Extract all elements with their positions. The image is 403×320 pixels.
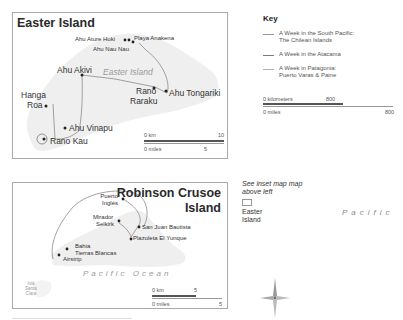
place-label: BahiaTierras Blancas — [75, 243, 116, 257]
ocean-label: Pacific — [342, 208, 394, 217]
route-line-icon — [263, 69, 274, 70]
scale-bar: 0 kilometers 800 0 miles 800 — [263, 96, 401, 118]
key-item: A Week in the South Pacific:The Chilean … — [263, 30, 401, 44]
island-label: Easter Island — [103, 68, 153, 77]
key-item: A Week in Patagonia:Puerto Varas & Paine — [263, 65, 401, 79]
place-label: Raraku — [130, 97, 157, 106]
map-title: Easter Island — [17, 16, 95, 30]
place-label: Plazoleta El Yunque — [133, 235, 187, 242]
map-title: Robinson Crusoe Island — [117, 186, 221, 216]
place-label: MiradorSelkirk — [93, 214, 114, 228]
route-line-icon — [263, 55, 274, 56]
divider — [12, 318, 132, 319]
place-label: Ahu Ature Huki — [75, 36, 115, 43]
place-label: San Juan Bautista — [142, 224, 191, 231]
inset-note: See inset map map above left Easter Isla… — [242, 180, 302, 224]
place-label: Ahu Akivi — [57, 66, 92, 75]
robinson-crusoe-map: Robinson Crusoe Island PuertoInglés Mira… — [12, 182, 228, 309]
key-title: Key — [263, 14, 401, 23]
place-label: Ahu Nau Nau — [93, 46, 129, 53]
place-label: Roa — [27, 101, 43, 110]
place-label: Airstrip — [63, 256, 82, 263]
easter-island-map: Easter Island Ahu Ature Huki Playa Anake… — [12, 12, 228, 159]
place-label: Rano — [136, 87, 156, 96]
place-label: Hanga — [21, 91, 46, 100]
map-key: Key A Week in the South Pacific:The Chil… — [263, 14, 401, 108]
place-label: IslaSantaClara — [25, 281, 37, 296]
place-label: Ahu Tongariki — [169, 89, 220, 98]
place-label: Ahu Vinapu — [69, 124, 113, 133]
place-label: PuertoInglés — [99, 193, 118, 207]
ocean-label: Pacific Ocean — [83, 269, 171, 278]
inset-locator-icon — [242, 199, 252, 206]
route-line-icon — [263, 34, 274, 35]
scale-bar: 0 km 10 0 miles 5 — [144, 132, 224, 154]
compass-rose-icon — [260, 278, 290, 318]
place-label: Playa Anakena — [134, 35, 174, 42]
place-label: Rano Kau — [50, 137, 88, 146]
key-item: A Week in the Atacama — [263, 51, 401, 58]
scale-bar: 0 km 5 0 miles 5 — [152, 287, 222, 309]
